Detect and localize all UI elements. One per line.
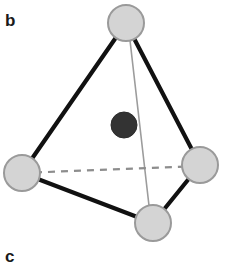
vertex-atom-left [4, 155, 40, 191]
vertex-atom-right [182, 147, 218, 183]
vertex-atom-top [108, 5, 144, 41]
tetrahedral-cluster-diagram [0, 0, 226, 268]
center-atom [111, 112, 137, 138]
panel-label-b: b [5, 12, 15, 29]
panel-label-c: c [5, 248, 14, 265]
figure-panel-b: b c [0, 0, 226, 268]
vertex-atom-bottom [135, 205, 171, 241]
